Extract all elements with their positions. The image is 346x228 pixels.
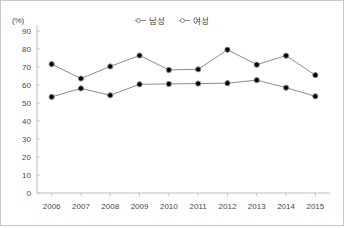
data-point bbox=[137, 82, 142, 87]
data-point bbox=[78, 86, 83, 91]
data-point bbox=[78, 76, 83, 81]
y-tick-label: 70 bbox=[22, 63, 31, 72]
y-tick-label: 90 bbox=[22, 27, 31, 36]
data-point bbox=[137, 53, 142, 58]
x-tick-label: 2011 bbox=[190, 202, 208, 211]
x-tick-label: 2013 bbox=[248, 202, 266, 211]
y-tick-label: 0 bbox=[27, 189, 32, 198]
y-axis: 0102030405060708090 bbox=[22, 25, 40, 198]
data-point bbox=[313, 94, 318, 99]
data-point bbox=[166, 81, 171, 86]
series-line-남성 bbox=[52, 50, 316, 79]
y-tick-label: 40 bbox=[22, 117, 31, 126]
x-tick-label: 2008 bbox=[101, 202, 119, 211]
data-point bbox=[283, 53, 288, 58]
data-point bbox=[108, 93, 113, 98]
data-point bbox=[196, 67, 201, 72]
x-axis: 2006200720082009201020112012201320142015 bbox=[37, 193, 330, 211]
x-tick-label: 2012 bbox=[219, 202, 237, 211]
data-point bbox=[49, 94, 54, 99]
y-tick-label: 60 bbox=[22, 81, 31, 90]
y-tick-label: 20 bbox=[22, 153, 31, 162]
y-tick-label: 80 bbox=[22, 45, 31, 54]
data-point bbox=[166, 67, 171, 72]
data-point bbox=[254, 62, 259, 67]
x-tick-label: 2014 bbox=[277, 202, 295, 211]
y-tick-label: 10 bbox=[22, 171, 31, 180]
data-point bbox=[196, 81, 201, 86]
data-point bbox=[283, 85, 288, 90]
data-point bbox=[49, 62, 54, 67]
data-point bbox=[108, 64, 113, 69]
series-line-여성 bbox=[52, 80, 316, 97]
x-tick-label: 2015 bbox=[306, 202, 324, 211]
data-point bbox=[225, 81, 230, 86]
y-tick-label: 50 bbox=[22, 99, 31, 108]
data-point bbox=[313, 73, 318, 78]
chart-plot-area: 0102030405060708090 20062007200820092010… bbox=[1, 1, 344, 226]
data-point bbox=[225, 47, 230, 52]
x-tick-label: 2009 bbox=[131, 202, 149, 211]
x-tick-label: 2007 bbox=[72, 202, 90, 211]
chart-series bbox=[49, 47, 318, 99]
y-tick-label: 30 bbox=[22, 135, 31, 144]
x-tick-label: 2010 bbox=[160, 202, 178, 211]
data-point bbox=[254, 78, 259, 83]
x-tick-label: 2006 bbox=[43, 202, 61, 211]
chart-figure: (%) 남성 여성 0102030405060708090 2006200720… bbox=[0, 0, 344, 226]
